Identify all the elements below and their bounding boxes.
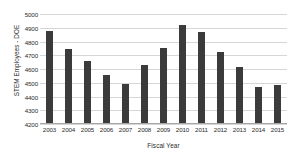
bar <box>217 52 224 124</box>
bar-chart: STEM Employees - DOE 4200430044004500460… <box>0 0 293 163</box>
y-axis-tick-label: 4500 <box>14 79 38 86</box>
bar <box>103 75 110 124</box>
y-axis-tick-label: 5000 <box>14 11 38 18</box>
y-axis-tick-label: 4700 <box>14 52 38 59</box>
bar-slot <box>211 14 230 124</box>
x-axis-line <box>40 123 287 124</box>
x-axis-tick-label: 2008 <box>135 126 154 133</box>
x-axis-tick-labels: 2003200420052006200720082009201020112012… <box>40 126 287 133</box>
bar <box>198 32 205 124</box>
bar <box>274 85 281 124</box>
bar-slot <box>59 14 78 124</box>
bar-slot <box>249 14 268 124</box>
y-axis-tick-label: 4900 <box>14 24 38 31</box>
x-axis-tick-label: 2007 <box>116 126 135 133</box>
bar <box>84 61 91 124</box>
x-axis-tick-label: 2015 <box>268 126 287 133</box>
bar-slot <box>40 14 59 124</box>
x-axis-tick-label: 2009 <box>154 126 173 133</box>
y-axis-tick-label: 4600 <box>14 66 38 73</box>
bar-slot <box>192 14 211 124</box>
bar <box>46 31 53 124</box>
y-axis-tick-labels: 420043004400450046004700480049005000 <box>14 0 38 163</box>
bar-slot <box>78 14 97 124</box>
x-axis-tick-label: 2012 <box>211 126 230 133</box>
y-axis-tick-label: 4800 <box>14 38 38 45</box>
bar <box>160 48 167 124</box>
y-axis-tick-label: 4200 <box>14 121 38 128</box>
bar-slot <box>268 14 287 124</box>
x-axis-tick-label: 2011 <box>192 126 211 133</box>
bar-slot <box>154 14 173 124</box>
bar-slot <box>173 14 192 124</box>
bar <box>65 49 72 124</box>
bar-slot <box>116 14 135 124</box>
bar <box>122 84 129 124</box>
bar <box>236 67 243 124</box>
bar-series <box>40 14 287 124</box>
x-axis-tick-label: 2005 <box>78 126 97 133</box>
bar-slot <box>97 14 116 124</box>
x-axis-tick-label: 2010 <box>173 126 192 133</box>
x-axis-tick-label: 2004 <box>59 126 78 133</box>
x-axis-tick-label: 2014 <box>249 126 268 133</box>
bar <box>255 87 262 124</box>
x-axis-tick-label: 2013 <box>230 126 249 133</box>
x-axis-tick-label: 2006 <box>97 126 116 133</box>
plot-area <box>40 14 287 124</box>
x-axis-title: Fiscal Year <box>40 142 287 149</box>
y-axis-tick-label: 4400 <box>14 93 38 100</box>
gridline <box>40 124 287 125</box>
bar <box>141 65 148 124</box>
bar-slot <box>135 14 154 124</box>
y-axis-tick-label: 4300 <box>14 107 38 114</box>
bar <box>179 25 186 124</box>
bar-slot <box>230 14 249 124</box>
x-axis-tick-label: 2003 <box>40 126 59 133</box>
